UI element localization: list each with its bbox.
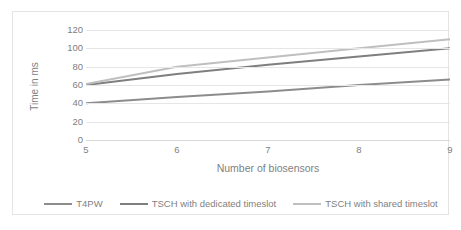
gridline-0 xyxy=(86,140,450,141)
y-axis-title: Time in ms xyxy=(27,34,41,138)
y-tick-label-100: 100 xyxy=(67,44,83,54)
x-tick-label-7: 7 xyxy=(265,145,270,155)
legend-item-label: TSCH with shared timeslot xyxy=(325,199,437,209)
legend-item-t4pw[interactable]: T4PW xyxy=(44,199,102,209)
chart-frame: Time in ms 020406080100120 56789 Number … xyxy=(12,11,449,215)
series-line-t4pw xyxy=(86,80,450,104)
x-axis-title: Number of biosensors xyxy=(86,162,450,174)
legend-item-label: T4PW xyxy=(76,199,102,209)
legend-line-swatch-icon xyxy=(120,203,148,206)
x-axis-tick-labels: 56789 xyxy=(86,145,450,161)
y-tick-label-80: 80 xyxy=(72,62,83,72)
gridline-100 xyxy=(86,48,450,49)
gridline-60 xyxy=(86,85,450,86)
legend-line-swatch-icon xyxy=(293,203,321,206)
series-line-tsch-with-shared-timeslot xyxy=(86,39,450,84)
x-tick-label-6: 6 xyxy=(174,145,179,155)
y-tick-label-120: 120 xyxy=(67,25,83,35)
chart-legend: T4PWTSCH with dedicated timeslotTSCH wit… xyxy=(31,195,451,213)
legend-line-swatch-icon xyxy=(44,203,72,206)
y-tick-label-20: 20 xyxy=(72,117,83,127)
x-tick-label-5: 5 xyxy=(83,145,88,155)
y-tick-label-60: 60 xyxy=(72,80,83,90)
y-axis-tick-labels: 020406080100120 xyxy=(53,24,83,146)
legend-item-tsch-with-dedicated-timeslot[interactable]: TSCH with dedicated timeslot xyxy=(120,199,277,209)
gridline-40 xyxy=(86,103,450,104)
y-tick-label-0: 0 xyxy=(78,135,83,145)
x-tick-label-9: 9 xyxy=(447,145,452,155)
legend-item-label: TSCH with dedicated timeslot xyxy=(152,199,277,209)
gridline-120 xyxy=(86,30,450,31)
plot-area xyxy=(86,30,450,140)
gridline-80 xyxy=(86,67,450,68)
y-tick-label-40: 40 xyxy=(72,99,83,109)
gridline-20 xyxy=(86,122,450,123)
x-tick-label-8: 8 xyxy=(356,145,361,155)
chart-figure: Time in ms 020406080100120 56789 Number … xyxy=(0,0,461,230)
y-axis-title-label: Time in ms xyxy=(29,62,40,111)
legend-item-tsch-with-shared-timeslot[interactable]: TSCH with shared timeslot xyxy=(293,199,437,209)
